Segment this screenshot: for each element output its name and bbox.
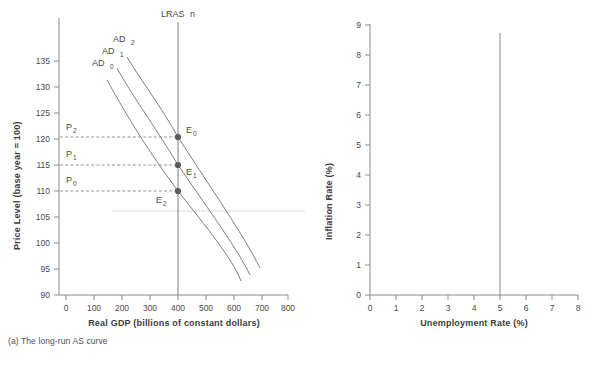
y-tick-label: 2 [356, 230, 361, 240]
y-tick-label: 4 [356, 170, 361, 180]
e0-label-base: E [186, 125, 192, 135]
equilibrium-dot-e1 [175, 162, 181, 168]
equilibrium-label-e1: E 1 [186, 167, 197, 179]
y-tick-label: 6 [356, 110, 361, 120]
y-tick-label: 0 [356, 290, 361, 300]
x-tick-label: 7 [550, 303, 555, 313]
caption-panel-a: (a) The long-run AS curve [8, 336, 108, 346]
y-ticks-b [365, 25, 370, 295]
y-tick-label: 7 [356, 80, 361, 90]
ad1-label-sub: 1 [120, 51, 124, 58]
economics-figure: Price Level (base year = 100) 90 95 [0, 0, 599, 368]
y-tick-label: 100 [36, 238, 50, 248]
e1-label-base: E [186, 167, 192, 177]
y-tick-label: 90 [41, 290, 51, 300]
p1-label-base: P [66, 149, 72, 159]
x-tick-label: 700 [255, 303, 269, 313]
y-tick-label: 135 [36, 56, 50, 66]
y-tick-label: 115 [36, 160, 50, 170]
chart-b-svg: Inflation Rate (%) 0 1 2 3 [310, 0, 599, 330]
ad1-label: AD 1 [102, 46, 124, 58]
e2-label-base: E [156, 195, 162, 205]
x-tick-label: 5 [498, 303, 503, 313]
y-tick-label: 9 [356, 20, 361, 30]
y-tick-label: 130 [36, 82, 50, 92]
x-ticks-a [66, 295, 288, 300]
y-tick-labels-a: 90 95 100 105 110 115 120 125 130 135 [36, 56, 50, 300]
e0-label-sub: 0 [193, 130, 197, 137]
y-tick-label: 125 [36, 108, 50, 118]
equilibrium-dot-e2 [175, 188, 181, 194]
p2-label-base: P [66, 122, 72, 132]
ad2-label-base: AD [113, 34, 126, 44]
ad0-label: AD 0 [92, 58, 114, 70]
y-tick-label: 95 [41, 264, 51, 274]
x-tick-label: 500 [199, 303, 213, 313]
price-label-p1: P 1 [66, 149, 77, 161]
ad2-curve [127, 57, 260, 268]
y-tick-label: 1 [356, 260, 361, 270]
x-tick-label: 0 [368, 303, 373, 313]
x-tick-label: 6 [524, 303, 529, 313]
x-tick-label: 800 [281, 303, 295, 313]
x-tick-labels-a: 0 100 200 300 400 500 600 700 800 [64, 303, 296, 313]
y-tick-labels-b: 0 1 2 3 4 5 6 7 8 9 [356, 20, 361, 300]
y-ticks-a [54, 61, 59, 295]
y-tick-label: 5 [356, 140, 361, 150]
y-tick-label: 8 [356, 50, 361, 60]
lras-label-base: LRAS [161, 9, 185, 19]
y-tick-label: 105 [36, 212, 50, 222]
e2-label-sub: 2 [163, 200, 167, 207]
p2-label-sub: 2 [73, 127, 77, 134]
y-tick-label: 120 [36, 134, 50, 144]
x-axis-title-a: Real GDP (billions of constant dollars) [88, 318, 260, 328]
x-tick-label: 300 [143, 303, 157, 313]
x-axis-title-b: Unemployment Rate (%) [420, 318, 528, 328]
x-tick-label: 2 [420, 303, 425, 313]
x-tick-label: 3 [446, 303, 451, 313]
y-tick-label: 3 [356, 200, 361, 210]
price-label-p0: P 0 [66, 175, 77, 187]
x-tick-label: 200 [115, 303, 129, 313]
y-axis-title-a: Price Level (base year = 100) [12, 121, 22, 250]
lras-label: LRAS n [161, 9, 195, 19]
x-tick-label: 8 [576, 303, 581, 313]
x-tick-label: 400 [171, 303, 185, 313]
price-label-p2: P 2 [66, 122, 77, 134]
x-tick-labels-b: 0 1 2 3 4 5 6 7 8 [368, 303, 581, 313]
x-tick-label: 4 [472, 303, 477, 313]
p0-label-base: P [66, 175, 72, 185]
panel-vertical-phillips-curve: Inflation Rate (%) 0 1 2 3 [310, 0, 599, 368]
equilibrium-dot-e0 [175, 134, 181, 140]
y-axis-title-b: Inflation Rate (%) [324, 163, 334, 240]
ad2-label: AD 2 [113, 34, 135, 46]
lras-label-sub: n [190, 9, 195, 19]
ad0-label-base: AD [92, 58, 105, 68]
y-tick-label: 110 [36, 186, 50, 196]
equilibrium-label-e2: E 2 [156, 195, 167, 207]
x-tick-label: 0 [64, 303, 69, 313]
x-ticks-b [370, 295, 578, 300]
panel-long-run-as-curve: Price Level (base year = 100) 90 95 [0, 0, 310, 368]
x-tick-label: 600 [227, 303, 241, 313]
x-tick-label: 1 [394, 303, 399, 313]
ad2-label-sub: 2 [131, 39, 135, 46]
x-tick-label: 100 [87, 303, 101, 313]
p1-label-sub: 1 [73, 154, 77, 161]
e1-label-sub: 1 [193, 172, 197, 179]
p0-label-sub: 0 [73, 180, 77, 187]
ad0-curve [107, 80, 241, 281]
equilibrium-label-e0: E 0 [186, 125, 197, 137]
chart-a-svg: Price Level (base year = 100) 90 95 [0, 0, 310, 330]
ad1-label-base: AD [102, 46, 115, 56]
ad0-label-sub: 0 [110, 63, 114, 70]
ad1-curve [117, 68, 250, 275]
